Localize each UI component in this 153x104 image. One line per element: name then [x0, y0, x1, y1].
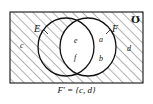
figure-caption: F′ = {c, d}	[0, 85, 153, 95]
venn-diagram-figure: Ʊ E F c e f a b d F′ = {c, d}	[0, 0, 153, 104]
shaded-region-f-complement	[10, 12, 143, 83]
